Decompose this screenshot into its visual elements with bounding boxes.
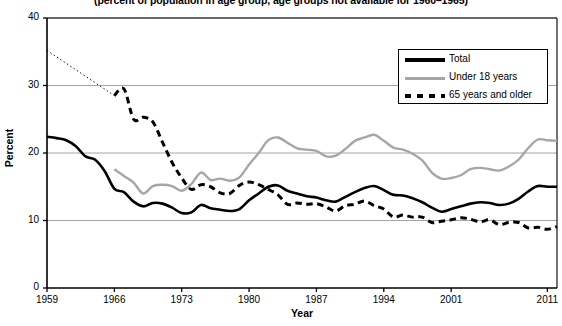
legend-label-65-and-older: 65 years and older [449,89,532,100]
y-tick-label: 20 [13,146,39,157]
chart-legend: Total Under 18 years 65 years and older [398,49,548,104]
legend-label-total: Total [449,53,470,64]
x-tick-label: 1987 [291,294,341,305]
legend-swatch-under-18 [405,77,445,80]
series-line-under-18 [114,135,557,194]
y-tick-label: 40 [13,11,39,22]
legend-item-total: Total [399,51,549,69]
legend-swatch-65-and-older [405,94,445,98]
legend-item-under-18: Under 18 years [399,69,549,87]
series-line-65-and-older [114,88,557,229]
y-tick-label: 10 [13,214,39,225]
x-tick-label: 1966 [89,294,139,305]
x-tick-label: 1980 [224,294,274,305]
legend-item-65-and-older: 65 years and older [399,87,549,105]
interpolation-dotted-65-and-older [47,50,114,95]
x-tick-label: 1994 [359,294,409,305]
poverty-rate-chart: (percent of population in age group, age… [0,0,562,326]
x-tick-label: 2011 [522,294,562,305]
x-tick-label: 1973 [157,294,207,305]
legend-label-under-18: Under 18 years [449,71,517,82]
y-tick-label: 0 [13,281,39,292]
y-tick-label: 30 [13,79,39,90]
x-tick-label: 1959 [22,294,72,305]
x-tick-label: 2001 [426,294,476,305]
legend-swatch-total [405,58,445,62]
